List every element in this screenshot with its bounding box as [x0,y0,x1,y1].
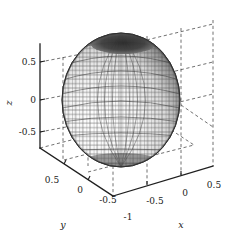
y-axis-ticks [64,160,90,180]
z-tick-label-2: -0.5 [19,127,37,137]
sphere-mesh [60,30,185,172]
sphere-3d-plot: 0.5 0 -0.5 0.5 0 -0.5 -1 -0.5 0 0.5 z y … [0,0,229,239]
z-axis-ticks [40,61,45,132]
x-tick-label-1: -0.5 [146,196,164,206]
sphere-top-cap [90,32,156,54]
y-tick-label-1: 0 [77,185,83,195]
figure-canvas: 0.5 0 -0.5 0.5 0 -0.5 -1 -0.5 0 0.5 z y … [0,0,229,239]
x-tick-label-3: 0.5 [207,180,222,190]
x-axis-ticks [147,171,181,185]
z-axis-label: z [3,100,14,107]
z-tick-label-1: 0 [30,95,36,105]
sphere-bottom-cap [81,153,161,171]
y-tick-label-2: -0.5 [99,195,117,205]
z-tick-label-0: 0.5 [22,57,37,67]
x-tick-label-0: -1 [124,212,133,222]
y-tick-label-0: 0.5 [45,175,60,185]
y-axis-label: y [59,219,66,230]
x-axis-spine [113,166,213,196]
x-tick-label-2: 0 [182,188,188,198]
x-axis-label: x [178,219,184,230]
sphere-surface [60,30,185,172]
